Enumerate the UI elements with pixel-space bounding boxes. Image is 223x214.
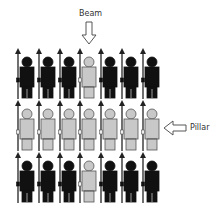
torso-icon [62, 119, 76, 139]
torso-icon [41, 171, 55, 191]
legs-icon [84, 191, 94, 202]
torso-icon [62, 171, 76, 191]
torso-icon [41, 67, 55, 87]
spear-tip-icon [140, 48, 146, 54]
soldier-figure-light [77, 152, 96, 203]
spear-tip-icon [140, 152, 146, 158]
head-icon [64, 57, 74, 67]
hand-icon [142, 130, 145, 134]
head-icon [105, 161, 115, 171]
spear-tip-icon [119, 100, 125, 106]
hand-icon [142, 182, 145, 186]
hand-icon [38, 78, 41, 82]
legs-icon [84, 87, 94, 98]
hand-icon [38, 130, 41, 134]
beam-label: Beam [79, 10, 102, 18]
legs-icon [43, 139, 53, 150]
hand-icon [59, 78, 62, 82]
hand-icon [100, 78, 103, 82]
head-icon [22, 57, 32, 67]
head-icon [84, 161, 94, 171]
soldier-figure-dark [57, 152, 76, 203]
soldier-figure-dark [36, 48, 55, 99]
head-icon [84, 109, 94, 119]
soldier-figure-light [77, 48, 96, 99]
torso-icon [103, 67, 117, 87]
spear-tip-icon [98, 48, 104, 54]
torso-icon [20, 171, 34, 191]
pillar-arrow-icon [164, 121, 186, 135]
formation-diagram: Beam Pillar [0, 0, 223, 214]
torso-icon [82, 119, 96, 139]
head-icon [22, 109, 32, 119]
torso-icon [20, 119, 34, 139]
head-icon [126, 57, 136, 67]
torso-icon [145, 119, 159, 139]
spear-tip-icon [98, 152, 104, 158]
torso-icon [103, 171, 117, 191]
soldier-figure-dark [57, 48, 76, 99]
hand-icon [121, 78, 124, 82]
spear-tip-icon [77, 48, 83, 54]
head-icon [64, 161, 74, 171]
head-icon [147, 109, 157, 119]
soldier-figure-dark [140, 48, 159, 99]
legs-icon [84, 139, 94, 150]
hand-icon [17, 130, 20, 134]
head-icon [43, 57, 53, 67]
legs-icon [22, 139, 32, 150]
beam-arrow-icon [82, 22, 96, 44]
hand-icon [79, 130, 82, 134]
pillar-label: Pillar [190, 124, 210, 132]
spear-tip-icon [98, 100, 104, 106]
spear-tip-icon [15, 152, 21, 158]
soldier-figure-light [57, 100, 76, 151]
spear-tip-icon [15, 48, 21, 54]
spear-tip-icon [119, 152, 125, 158]
spear-tip-icon [77, 100, 83, 106]
spear-tip-icon [15, 100, 21, 106]
soldier-figure-dark [98, 48, 117, 99]
spear-tip-icon [57, 100, 63, 106]
hand-icon [121, 182, 124, 186]
legs-icon [105, 139, 115, 150]
spear-tip-icon [119, 48, 125, 54]
spear-tip-icon [36, 100, 42, 106]
head-icon [105, 57, 115, 67]
torso-icon [82, 171, 96, 191]
spear-tip-icon [57, 152, 63, 158]
soldier-figure-dark [15, 152, 34, 203]
head-icon [126, 109, 136, 119]
spear-tip-icon [57, 48, 63, 54]
torso-icon [145, 171, 159, 191]
head-icon [43, 109, 53, 119]
head-icon [43, 161, 53, 171]
hand-icon [100, 182, 103, 186]
soldier-figure-light [140, 100, 159, 151]
hand-icon [79, 182, 82, 186]
soldier-figure-dark [140, 152, 159, 203]
legs-icon [147, 139, 157, 150]
torso-icon [62, 67, 76, 87]
soldier-figure-light [98, 100, 117, 151]
torso-icon [103, 119, 117, 139]
head-icon [147, 57, 157, 67]
spear-tip-icon [140, 100, 146, 106]
soldier-grid [0, 0, 223, 214]
hand-icon [17, 78, 20, 82]
soldier-figure-light [77, 100, 96, 151]
head-icon [147, 161, 157, 171]
torso-icon [41, 119, 55, 139]
hand-icon [17, 182, 20, 186]
hand-icon [142, 78, 145, 82]
legs-icon [64, 139, 74, 150]
soldier-figure-dark [119, 152, 138, 203]
head-icon [126, 161, 136, 171]
hand-icon [59, 130, 62, 134]
soldier-figure-dark [119, 48, 138, 99]
spear-tip-icon [36, 152, 42, 158]
head-icon [105, 109, 115, 119]
head-icon [84, 57, 94, 67]
spear-tip-icon [77, 152, 83, 158]
torso-icon [20, 67, 34, 87]
